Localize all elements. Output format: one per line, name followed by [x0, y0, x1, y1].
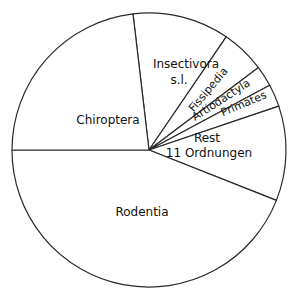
label-rodentia: Rodentia: [115, 205, 168, 219]
label-insectivora-sl: s.l.: [170, 73, 187, 87]
label-chiroptera: Chiroptera: [76, 113, 139, 127]
slice-chiroptera: [12, 14, 149, 150]
pie-chart: Insectivora s.l. Fissipedia Artiodactyla…: [0, 0, 293, 295]
label-rest-ordnungen: 11 Ordnungen: [166, 146, 252, 160]
label-rest: Rest: [194, 131, 220, 145]
label-insectivora: Insectivora: [153, 57, 219, 71]
